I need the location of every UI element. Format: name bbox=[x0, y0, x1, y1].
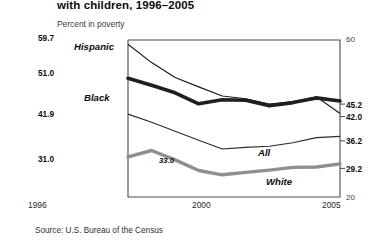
series-line-hispanic bbox=[128, 44, 340, 113]
data-point-label-33: 33.0 bbox=[159, 156, 174, 165]
series-label-hispanic: Hispanic bbox=[74, 41, 114, 52]
series-line-all bbox=[128, 114, 340, 149]
series-label-black: Black bbox=[84, 92, 110, 103]
poverty-rate-line-chart-figure: with children, 1996–2005 Percent in pove… bbox=[0, 0, 378, 245]
series-label-all: All bbox=[258, 147, 270, 158]
series-line-black bbox=[128, 78, 340, 105]
y-axis-ticks-right bbox=[340, 104, 345, 168]
source-note: Source: U.S. Bureau of the Census bbox=[35, 226, 163, 235]
series-label-white: White bbox=[266, 176, 292, 187]
plot-area bbox=[0, 0, 378, 245]
